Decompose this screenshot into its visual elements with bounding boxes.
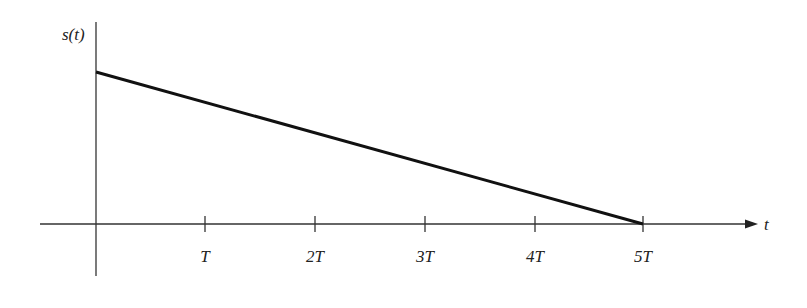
tick-label-3T: 3T	[415, 247, 436, 266]
x-axis-label: t	[764, 215, 770, 234]
tick-label-5T: 5T	[634, 247, 654, 266]
x-axis-arrow-icon	[745, 220, 758, 229]
tick-label-2T: 2T	[306, 247, 326, 266]
tick-label-4T: 4T	[526, 247, 546, 266]
tick-label-T: T	[200, 247, 211, 266]
signal-plot: s(t) t T 2T 3T 4T 5T	[0, 0, 807, 308]
signal-line	[96, 72, 643, 224]
y-axis-label: s(t)	[62, 25, 85, 44]
